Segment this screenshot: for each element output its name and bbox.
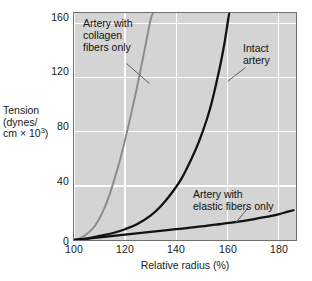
- x-tick-140: 140: [156, 244, 196, 255]
- annotation-intact-artery: Intact artery: [243, 43, 305, 67]
- y-axis-unit-close: ): [45, 127, 49, 139]
- leader-line-intact: [228, 68, 246, 82]
- y-tick-160: 160: [35, 12, 69, 23]
- x-tick-120: 120: [105, 244, 145, 255]
- y-tick-120: 120: [35, 66, 69, 77]
- y-axis-tick-labels: 160 120 80 40 0: [33, 0, 69, 281]
- y-axis-title-line-3: cm × 103): [3, 128, 71, 140]
- annotation-elastic-artery: Artery with elastic fibers only: [193, 189, 299, 213]
- y-axis-unit-base: cm × 10: [3, 127, 41, 139]
- series-line-2: [74, 210, 293, 240]
- x-axis-title: Relative radius (%): [73, 259, 297, 271]
- x-tick-160: 160: [208, 244, 248, 255]
- annotation-collagen-artery: Artery with collagen fibers only: [83, 18, 153, 53]
- tension-vs-relative-radius-chart: 160 120 80 40 0 Tension (dynes/ cm × 103…: [0, 0, 312, 281]
- y-axis-title: Tension (dynes/ cm × 103): [3, 105, 71, 140]
- y-tick-40: 40: [35, 176, 69, 187]
- x-tick-180: 180: [259, 244, 299, 255]
- y-axis-title-line-1: Tension: [3, 105, 71, 117]
- x-axis-tick-labels: 100 120 140 160 180: [0, 244, 312, 258]
- x-tick-100: 100: [54, 244, 94, 255]
